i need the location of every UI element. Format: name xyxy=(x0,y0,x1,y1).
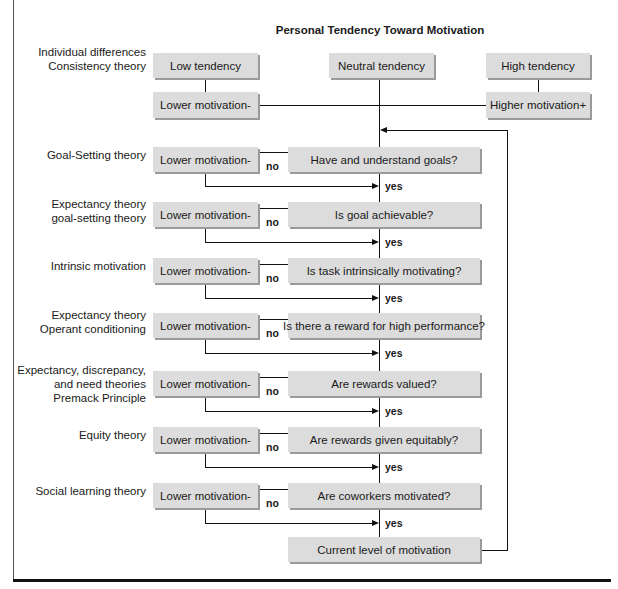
current-motivation-box: Current level of motivation xyxy=(288,537,480,562)
question-box: Are rewards valued? xyxy=(288,371,480,396)
no-connector xyxy=(260,208,288,209)
theory-line: Expectancy theory xyxy=(40,308,146,322)
feedback-vertical-line xyxy=(507,130,508,551)
bypass-down-line xyxy=(205,398,206,411)
top-theory-line-2: Consistency theory xyxy=(38,59,146,73)
yes-label: yes xyxy=(385,517,403,529)
no-label: no xyxy=(266,160,279,172)
bypass-line xyxy=(205,298,373,299)
arrow-right-icon xyxy=(372,350,379,356)
frame-bottom-rule xyxy=(13,579,611,582)
bypass-down-line xyxy=(205,454,206,467)
no-label: no xyxy=(266,272,279,284)
question-box: Are rewards given equitably? xyxy=(288,427,480,452)
no-label: no xyxy=(266,327,279,339)
theory-line: Social learning theory xyxy=(35,484,146,498)
row-theory-label: Intrinsic motivation xyxy=(51,259,146,273)
row-theory-label: Goal-Setting theory xyxy=(47,148,146,162)
bypass-down-line xyxy=(205,229,206,242)
no-connector xyxy=(260,152,288,153)
yes-label: yes xyxy=(385,405,403,417)
feedback-top-line xyxy=(386,130,508,131)
question-box: Is goal achievable? xyxy=(288,202,480,227)
theory-line: Expectancy, discrepancy, xyxy=(17,363,146,377)
row-theory-label: Expectancy theoryOperant conditioning xyxy=(40,308,146,336)
bypass-down-line xyxy=(205,340,206,353)
theory-line: goal-setting theory xyxy=(51,211,146,225)
no-connector xyxy=(260,319,288,320)
lower-motivation-box: Lower motivation- xyxy=(153,371,258,396)
bypass-line xyxy=(205,523,373,524)
question-box: Are coworkers motivated? xyxy=(288,483,480,508)
row-theory-label: Expectancy, discrepancy,and need theorie… xyxy=(17,363,146,405)
lower-motivation-box: Lower motivation- xyxy=(153,313,258,338)
yes-label: yes xyxy=(385,347,403,359)
feedback-arrow-icon xyxy=(380,127,387,133)
arrow-right-icon xyxy=(372,520,379,526)
row-theory-label: Equity theory xyxy=(79,428,146,442)
arrow-right-icon xyxy=(372,183,379,189)
theory-line: Premack Principle xyxy=(17,391,146,405)
yes-label: yes xyxy=(385,236,403,248)
yes-label: yes xyxy=(385,461,403,473)
lower-motivation-box: Lower motivation- xyxy=(153,258,258,283)
bypass-line xyxy=(205,467,373,468)
top-theory-label: Individual differences Consistency theor… xyxy=(38,45,146,73)
no-label: no xyxy=(266,441,279,453)
bypass-down-line xyxy=(205,285,206,298)
frame-left-border xyxy=(13,0,14,582)
arrow-right-icon xyxy=(372,295,379,301)
yes-label: yes xyxy=(385,180,403,192)
lower-motivation-box-top: Lower motivation- xyxy=(153,92,258,118)
question-box: Is task intrinsically motivating? xyxy=(288,258,480,283)
low-connector xyxy=(205,80,206,92)
bypass-line xyxy=(205,353,373,354)
bypass-line xyxy=(205,242,373,243)
bypass-line xyxy=(205,186,373,187)
no-connector xyxy=(260,264,288,265)
yes-label: yes xyxy=(385,292,403,304)
lower-motivation-box: Lower motivation- xyxy=(153,147,258,172)
theory-line: Operant conditioning xyxy=(40,322,146,336)
no-connector xyxy=(260,433,288,434)
arrow-right-icon xyxy=(372,464,379,470)
no-label: no xyxy=(266,497,279,509)
theory-line: Goal-Setting theory xyxy=(47,148,146,162)
motivation-span-line xyxy=(260,105,486,106)
row-theory-label: Social learning theory xyxy=(35,484,146,498)
theory-line: Expectancy theory xyxy=(51,197,146,211)
no-label: no xyxy=(266,216,279,228)
theory-line: Intrinsic motivation xyxy=(51,259,146,273)
lower-motivation-box: Lower motivation- xyxy=(153,427,258,452)
bypass-down-line xyxy=(205,510,206,523)
question-box: Have and understand goals? xyxy=(288,147,480,172)
feedback-bottom-line xyxy=(482,550,508,551)
high-connector xyxy=(538,80,539,92)
theory-line: and need theories xyxy=(17,377,146,391)
arrow-right-icon xyxy=(372,408,379,414)
question-box: Is there a reward for high performance? xyxy=(288,313,480,338)
theory-line: Equity theory xyxy=(79,428,146,442)
neutral-tendency-box: Neutral tendency xyxy=(329,53,434,78)
no-connector xyxy=(260,377,288,378)
high-tendency-box: High tendency xyxy=(486,53,590,78)
higher-motivation-box-top: Higher motivation+ xyxy=(486,92,590,118)
bypass-line xyxy=(205,411,373,412)
lower-motivation-box: Lower motivation- xyxy=(153,483,258,508)
no-connector xyxy=(260,489,288,490)
lower-motivation-box: Lower motivation- xyxy=(153,202,258,227)
no-label: no xyxy=(266,385,279,397)
arrow-right-icon xyxy=(372,239,379,245)
low-tendency-box: Low tendency xyxy=(153,53,258,78)
row-theory-label: Expectancy theorygoal-setting theory xyxy=(51,197,146,225)
top-theory-line-1: Individual differences xyxy=(38,45,146,59)
diagram-title: Personal Tendency Toward Motivation xyxy=(0,24,618,36)
